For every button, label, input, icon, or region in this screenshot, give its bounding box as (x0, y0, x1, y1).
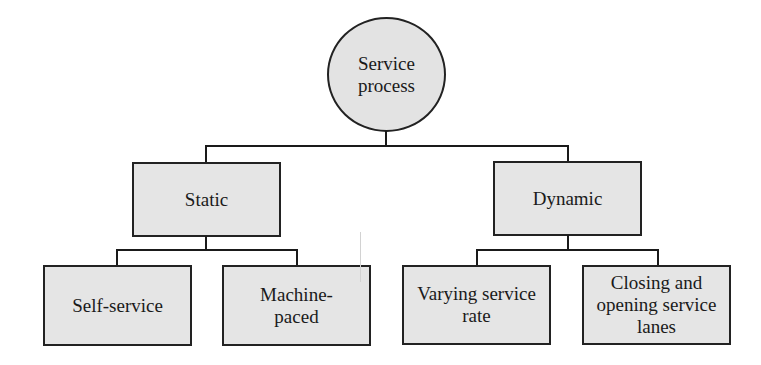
connector-to-dynamic (567, 145, 569, 162)
node-closing-opening-lanes-label: Closing and opening service lanes (597, 272, 717, 338)
node-machine-paced-label: Machine- paced (260, 284, 333, 328)
service-process-diagram: Service process Static Dynamic Self-serv… (0, 0, 761, 365)
node-static-label: Static (185, 189, 228, 211)
node-varying-service-rate-label: Varying service rate (417, 283, 536, 327)
connector-to-closing-lanes (657, 249, 659, 266)
connector-to-self-service (116, 249, 118, 266)
connector-to-varying-rate (476, 249, 478, 266)
node-machine-paced: Machine- paced (222, 265, 371, 346)
node-dynamic-label: Dynamic (533, 188, 603, 210)
node-varying-service-rate: Varying service rate (402, 265, 551, 345)
node-closing-opening-lanes: Closing and opening service lanes (582, 265, 731, 345)
connector-level1-bar (205, 145, 569, 147)
connector-dynamic-children-bar (476, 249, 659, 251)
scan-artifact-line (360, 232, 361, 282)
root-node-label: Service process (358, 53, 415, 97)
node-self-service: Self-service (43, 265, 192, 346)
node-dynamic: Dynamic (493, 161, 642, 236)
connector-to-machine-paced (296, 249, 298, 266)
connector-static-children-bar (116, 249, 298, 251)
connector-to-static (205, 145, 207, 163)
node-self-service-label: Self-service (72, 295, 163, 317)
root-node-service-process: Service process (327, 17, 446, 132)
node-static: Static (132, 162, 281, 237)
